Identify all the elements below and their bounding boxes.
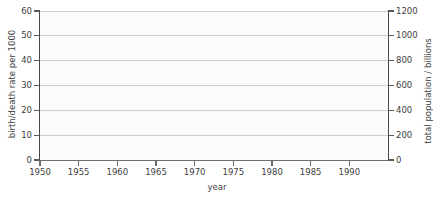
x-axis-tick	[39, 161, 40, 166]
x-axis-tick	[78, 161, 79, 166]
left-axis-tick-label: 10	[21, 131, 32, 140]
right-axis-tick-label: 200	[396, 131, 412, 140]
right-axis-tick	[389, 60, 394, 61]
left-axis-tick	[34, 135, 39, 136]
right-axis-tick	[389, 110, 394, 111]
right-axis-tick-label: 600	[396, 81, 412, 90]
left-axis-title: birth/death rate per 1000	[7, 14, 17, 154]
x-axis-title: year	[0, 182, 434, 192]
left-axis-tick	[34, 10, 39, 11]
x-axis-tick-label: 1990	[339, 167, 361, 177]
x-axis-tick-label: 1950	[29, 167, 51, 177]
left-axis-tick-label: 20	[21, 106, 32, 115]
x-axis-tick	[271, 161, 272, 166]
x-axis-tick	[117, 161, 118, 166]
right-axis-tick	[389, 159, 394, 160]
right-axis-tick-label: 1200	[396, 7, 418, 16]
right-axis-tick	[389, 85, 394, 86]
left-axis-tick	[34, 85, 39, 86]
gridline	[40, 85, 388, 86]
right-axis-tick	[389, 35, 394, 36]
left-axis-tick-label: 30	[21, 81, 32, 90]
x-axis-tick	[310, 161, 311, 166]
right-axis-tick-label: 800	[396, 56, 412, 65]
right-axis-tick-label: 0	[396, 156, 401, 165]
x-axis-tick	[233, 161, 234, 166]
x-axis-tick-label: 1960	[107, 167, 129, 177]
x-axis-tick-label: 1980	[261, 167, 283, 177]
gridline	[40, 11, 388, 12]
gridline	[40, 110, 388, 111]
x-axis-tick	[194, 161, 195, 166]
bottom-axis-line	[39, 160, 389, 161]
x-axis-tick-label: 1975	[223, 167, 245, 177]
gridline	[40, 135, 388, 136]
right-axis-title: total population / billions	[423, 21, 433, 161]
x-axis-tick-label: 1965	[145, 167, 167, 177]
gridline	[40, 60, 388, 61]
left-axis-tick	[34, 159, 39, 160]
left-axis-tick	[34, 60, 39, 61]
left-axis-tick	[34, 35, 39, 36]
left-axis-tick-label: 0	[27, 156, 32, 165]
gridline	[40, 35, 388, 36]
left-axis-tick-label: 60	[21, 7, 32, 16]
chart-figure: population birth/death rate per 1000 tot…	[0, 0, 434, 200]
left-axis-tick-label: 50	[21, 31, 32, 40]
right-axis-tick	[389, 135, 394, 136]
right-axis-tick-label: 1000	[396, 31, 418, 40]
x-axis-tick	[349, 161, 350, 166]
x-axis-tick	[155, 161, 156, 166]
left-axis-line	[39, 10, 40, 161]
right-axis-tick-label: 400	[396, 106, 412, 115]
x-axis-tick-label: 1970	[184, 167, 206, 177]
left-axis-tick-label: 40	[21, 56, 32, 65]
x-axis-tick-label: 1985	[300, 167, 322, 177]
left-axis-tick	[34, 110, 39, 111]
right-axis-tick	[389, 10, 394, 11]
x-axis-tick-label: 1955	[68, 167, 90, 177]
